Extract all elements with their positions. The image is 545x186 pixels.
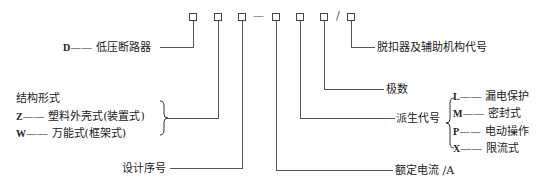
code-box-type	[189, 13, 197, 21]
derived-option-p: P—— 电动操作	[453, 125, 529, 138]
code-box-design-no	[238, 13, 246, 21]
structure-option-w: W—— 万能式(框架式)	[16, 127, 126, 140]
code-box-derived	[296, 13, 304, 21]
rated-current-label: 额定电流 /A	[395, 164, 454, 177]
type-label: D—— 低压断路器	[63, 41, 151, 54]
structure-option-z: Z—— 塑料外壳式(装置式)	[16, 110, 145, 123]
code-slash: /	[336, 9, 340, 23]
release-code-label: 脱扣器及辅助机构代号	[377, 41, 487, 54]
code-box-structure	[214, 13, 222, 21]
code-box-rated-current	[272, 13, 280, 21]
structure-brace-icon	[159, 100, 169, 136]
derived-option-x: X—— 限流式	[453, 142, 519, 155]
structure-title: 结构形式	[16, 92, 60, 105]
derived-option-l: L—— 漏电保护	[453, 90, 529, 103]
leader-structure-v	[218, 21, 219, 119]
derived-option-m: M—— 密封式	[453, 107, 521, 120]
leader-release-h	[351, 47, 375, 48]
leader-poles-v	[324, 21, 325, 90]
circuit-breaker-model-code-diagram: — / D—— 低压断路器 脱扣器及辅助机构代号 极数 结构形式 Z—— 塑料外…	[0, 0, 545, 186]
poles-label: 极数	[386, 83, 408, 96]
leader-poles-h	[324, 89, 384, 90]
leader-derived-v	[300, 21, 301, 119]
leader-type-h	[160, 47, 194, 48]
leader-current-h	[276, 170, 393, 171]
leader-current-v	[276, 21, 277, 171]
leader-structure-h	[168, 118, 219, 119]
leader-design-v	[242, 21, 243, 169]
design-no-label: 设计序号	[122, 162, 166, 175]
leader-design-h	[170, 168, 243, 169]
leader-derived-h	[300, 118, 395, 119]
leader-release-v	[351, 21, 352, 48]
code-box-release	[347, 13, 355, 21]
code-box-poles	[320, 13, 328, 21]
code-dash: —	[253, 9, 264, 23]
leader-type-v	[193, 21, 194, 48]
derived-code-title: 派生代号	[396, 112, 440, 125]
